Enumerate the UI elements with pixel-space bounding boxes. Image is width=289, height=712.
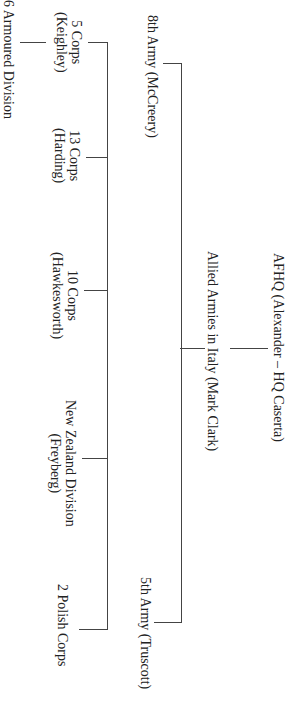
node-5-corps: 5 Corps (Keighley) — [54, 12, 84, 73]
connector-5-corps — [88, 42, 108, 43]
node-label: 5th Army (Truscott) — [138, 577, 153, 689]
node-13-corps: 13 Corps (Harding) — [52, 128, 82, 183]
connector-afhq — [230, 348, 268, 349]
node-line1: 5 Corps — [69, 12, 84, 73]
node-line2: (Freyberg) — [48, 400, 63, 527]
node-line1: New Zealand Division — [63, 400, 78, 527]
node-label: Allied Armies in Italy (Mark Clark) — [205, 251, 220, 451]
node-8th-army: 8th Army (McCreery) — [145, 15, 160, 138]
connector-6-armoured — [20, 42, 46, 43]
armies-bracket — [181, 63, 182, 623]
connector-13-corps — [86, 157, 108, 158]
node-2-polish-corps: 2 Polish Corps — [55, 584, 70, 666]
node-allied-armies: Allied Armies in Italy (Mark Clark) — [205, 251, 220, 451]
connector-10-corps — [84, 290, 108, 291]
node-line1: 2 Polish Corps — [55, 584, 70, 666]
node-label: 6 Armoured Division — [1, 0, 16, 119]
connector-2-polish-corps — [79, 629, 107, 630]
connector-5th-army — [154, 622, 182, 623]
connector-nz-division — [82, 458, 107, 459]
node-label: AFHQ (Alexander – HQ Caserta) — [271, 253, 286, 442]
node-line2: (Keighley) — [54, 12, 69, 73]
connector-allied-armies — [180, 348, 205, 349]
node-6-armoured-division: 6 Armoured Division — [1, 0, 16, 119]
node-line1: 10 Corps — [65, 252, 80, 339]
node-line2: (Harding) — [52, 128, 67, 183]
node-afhq: AFHQ (Alexander – HQ Caserta) — [271, 253, 286, 442]
connector-8th-army — [163, 63, 182, 64]
node-line1: 13 Corps — [67, 128, 82, 183]
node-5th-army: 5th Army (Truscott) — [138, 577, 153, 689]
node-line2: (Hawkesworth) — [50, 252, 65, 339]
corps-bracket — [107, 42, 108, 630]
node-nz-division: New Zealand Division (Freyberg) — [48, 400, 78, 527]
node-label: 8th Army (McCreery) — [145, 15, 160, 138]
node-10-corps: 10 Corps (Hawkesworth) — [50, 252, 80, 339]
